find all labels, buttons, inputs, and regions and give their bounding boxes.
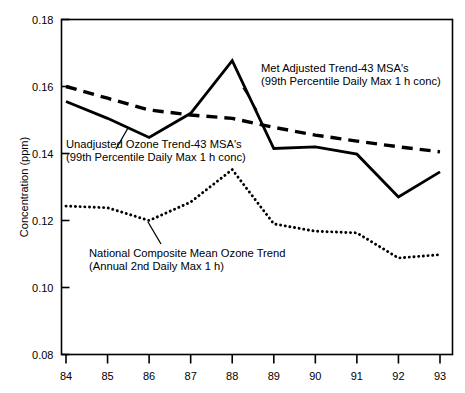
annotation-unadjusted-line2: (99th Percentile Daily Max 1 h conc) <box>66 151 246 163</box>
ozone-trend-chart-figure: 0.080.100.120.140.160.18 848586878889909… <box>0 0 465 393</box>
y-tick-label-0.12: 0.12 <box>32 215 53 227</box>
x-tick-label-90: 90 <box>309 370 321 382</box>
y-tick-label-0.14: 0.14 <box>32 148 53 160</box>
x-tick-label-92: 92 <box>392 370 404 382</box>
y-tick-label-0.16: 0.16 <box>32 81 53 93</box>
x-tick-label-84: 84 <box>60 370 72 382</box>
x-tick-label-89: 89 <box>268 370 280 382</box>
annotation-national-composite-line1: National Composite Mean Ozone Trend <box>89 247 286 259</box>
annotation-met-adjusted-line2: (99th Percentile Daily Max 1 h conc) <box>261 75 441 87</box>
annotation-met-adjusted-line1: Met Adjusted Trend-43 MSA's <box>261 62 409 74</box>
y-axis-title: Concentration (ppm) <box>18 137 30 237</box>
annotation-unadjusted: Unadjusted Ozone Trend-43 MSA's (99th Pe… <box>66 138 246 163</box>
x-tick-label-85: 85 <box>101 370 113 382</box>
annotation-national-composite-line2: (Annual 2nd Daily Max 1 h) <box>89 260 224 272</box>
x-tick-label-88: 88 <box>226 370 238 382</box>
y-tick-label-0.18: 0.18 <box>32 14 53 26</box>
x-tick-label-91: 91 <box>351 370 363 382</box>
y-tick-label-0.08: 0.08 <box>32 349 53 361</box>
x-tick-label-86: 86 <box>143 370 155 382</box>
x-tick-label-87: 87 <box>185 370 197 382</box>
x-tick-label-93: 93 <box>434 370 446 382</box>
annotation-unadjusted-line1: Unadjusted Ozone Trend-43 MSA's <box>66 138 242 150</box>
chart-canvas: 0.080.100.120.140.160.18 848586878889909… <box>0 0 465 393</box>
y-tick-label-0.10: 0.10 <box>32 282 53 294</box>
